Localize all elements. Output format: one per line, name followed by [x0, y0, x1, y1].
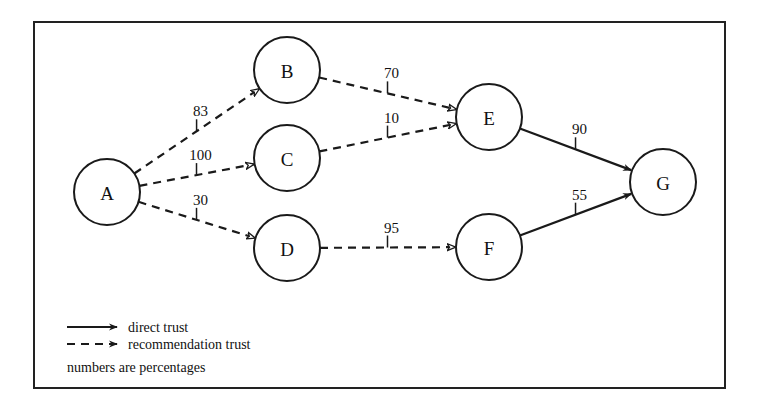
- node-B: B: [254, 37, 320, 103]
- node-label: A: [100, 183, 114, 204]
- edges-group: 83100307010959055: [134, 65, 631, 247]
- node-F: F: [456, 214, 522, 280]
- edge-weight: 100: [189, 147, 212, 163]
- edge-B-E: 70: [319, 65, 456, 109]
- node-C: C: [254, 125, 320, 191]
- node-D: D: [254, 215, 320, 281]
- node-G: G: [630, 149, 696, 215]
- legend: direct trust recommendation trust number…: [67, 320, 251, 375]
- node-label: D: [280, 239, 294, 260]
- node-E: E: [456, 84, 522, 150]
- edge-E-G: 90: [520, 121, 631, 170]
- edge-F-G: 55: [520, 187, 631, 236]
- node-label: B: [281, 61, 294, 82]
- node-label: C: [281, 149, 294, 170]
- edge-A-C: 100: [139, 147, 253, 186]
- legend-recommendation-label: recommendation trust: [128, 337, 251, 352]
- legend-direct-label: direct trust: [128, 320, 188, 335]
- edge-weight: 90: [572, 121, 587, 137]
- edge-weight: 70: [384, 65, 399, 81]
- edge-weight: 95: [384, 220, 399, 236]
- trust-graph-diagram: 83100307010959055 ABCDEFG direct trust r…: [0, 0, 759, 413]
- edge-weight: 83: [193, 103, 208, 119]
- edge-D-F: 95: [320, 220, 455, 248]
- legend-note: numbers are percentages: [67, 360, 205, 375]
- edge-weight: 10: [384, 110, 399, 126]
- node-label: F: [484, 238, 495, 259]
- node-A: A: [74, 159, 140, 225]
- edge-A-D: 30: [139, 192, 255, 238]
- node-label: E: [483, 108, 495, 129]
- node-label: G: [656, 173, 670, 194]
- edge-weight: 30: [193, 192, 208, 208]
- edge-weight: 55: [572, 187, 587, 203]
- edge-C-E: 10: [319, 110, 455, 152]
